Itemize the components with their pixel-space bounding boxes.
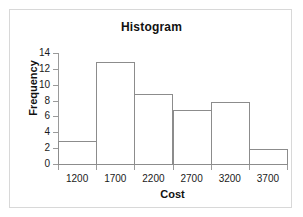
histogram-bar bbox=[173, 110, 212, 166]
y-tick-12 bbox=[53, 69, 59, 70]
x-tick-boundary bbox=[134, 165, 135, 170]
y-tick-label-2: 2 bbox=[10, 143, 50, 153]
y-tick-label-0: 0 bbox=[10, 159, 50, 169]
histogram-bar bbox=[96, 62, 135, 165]
histogram-bar bbox=[211, 102, 250, 165]
y-axis-title: Frequency bbox=[27, 43, 39, 133]
histogram-bar bbox=[249, 149, 288, 165]
x-tick-boundary bbox=[211, 165, 212, 170]
chart-frame: Histogram 0 2 4 6 8 10 12 14 1200 1700 2… bbox=[9, 9, 292, 208]
y-tick-14 bbox=[53, 53, 59, 54]
x-tick-label-3700: 3700 bbox=[246, 173, 290, 184]
y-tick-8 bbox=[53, 101, 59, 102]
x-tick-boundary bbox=[249, 165, 250, 170]
x-tick-boundary bbox=[287, 165, 288, 170]
histogram-bar bbox=[134, 94, 173, 165]
x-tick-boundary bbox=[96, 165, 97, 170]
histogram-bar bbox=[58, 141, 97, 165]
x-tick-boundary bbox=[173, 165, 174, 170]
y-tick-6 bbox=[53, 116, 59, 117]
y-tick-4 bbox=[53, 132, 59, 133]
chart-title: Histogram bbox=[10, 20, 293, 34]
y-tick-10 bbox=[53, 85, 59, 86]
x-axis-title: Cost bbox=[58, 188, 287, 200]
x-tick-boundary bbox=[58, 165, 59, 170]
